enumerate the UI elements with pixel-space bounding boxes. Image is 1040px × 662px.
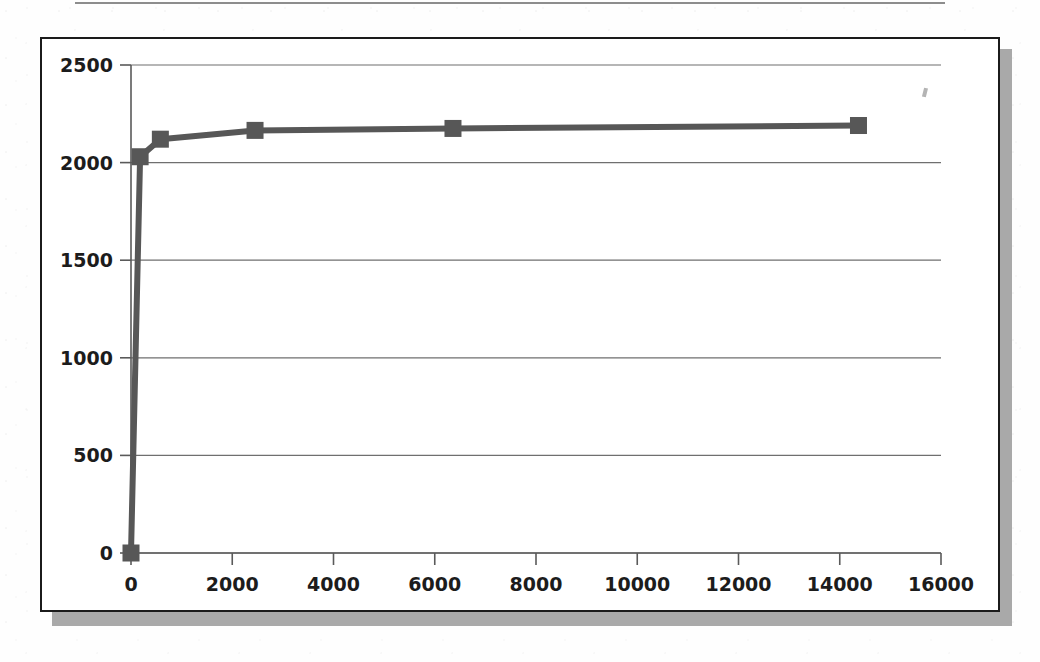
series-line-path <box>131 126 858 553</box>
document-top-rule <box>75 2 945 4</box>
y-tick-label: 2000 <box>60 152 113 174</box>
data-point-marker <box>444 120 461 137</box>
data-point-marker <box>132 148 149 165</box>
x-tick-label: 0 <box>124 573 137 595</box>
y-tick-label: 1000 <box>60 347 113 369</box>
x-tick-label: 10000 <box>604 573 670 595</box>
line-chart-plot: 0500100015002000250002000400060008000100… <box>42 39 998 610</box>
x-tick-label: 2000 <box>206 573 259 595</box>
y-tick-label: 2500 <box>60 54 113 76</box>
data-point-marker <box>152 131 169 148</box>
x-tick-label: 14000 <box>807 573 873 595</box>
x-tick-label: 16000 <box>908 573 974 595</box>
x-tick-label: 4000 <box>307 573 360 595</box>
data-point-marker <box>123 545 140 562</box>
y-tick-label: 1500 <box>60 249 113 271</box>
y-tick-label: 500 <box>73 444 113 466</box>
scanned-page: 0500100015002000250002000400060008000100… <box>0 0 1040 662</box>
x-tick-label: 8000 <box>510 573 563 595</box>
x-tick-label: 6000 <box>408 573 461 595</box>
data-point-marker <box>247 122 264 139</box>
x-tick-label: 12000 <box>705 573 771 595</box>
y-tick-label: 0 <box>100 542 113 564</box>
chart-frame: 0500100015002000250002000400060008000100… <box>40 37 1000 612</box>
data-point-marker <box>850 117 867 134</box>
